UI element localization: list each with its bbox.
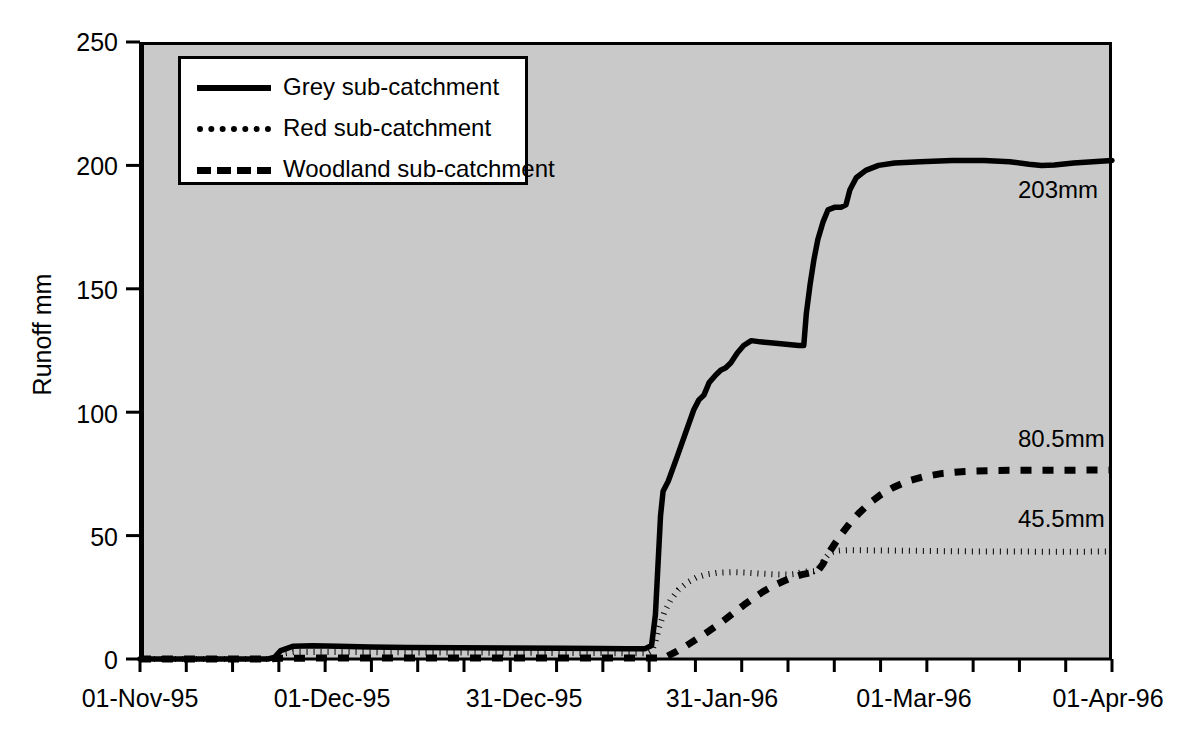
legend-swatch-solid-icon	[197, 80, 271, 94]
annotation-woodland-total: 80.5mm	[1018, 425, 1105, 453]
chart-legend: Grey sub-catchment Red sub-catchment Woo…	[178, 56, 528, 185]
legend-label-woodland: Woodland sub-catchment	[283, 155, 555, 183]
legend-item-red: Red sub-catchment	[181, 106, 525, 149]
runoff-chart: Runoff mm 250 200 150 100 50 0 01-Nov-95…	[0, 0, 1188, 737]
legend-label-red: Red sub-catchment	[283, 114, 491, 142]
legend-swatch-dashed-icon	[197, 162, 271, 176]
legend-swatch-dotted-icon	[197, 121, 271, 135]
legend-label-grey: Grey sub-catchment	[283, 73, 499, 101]
annotation-grey-total: 203mm	[1018, 176, 1098, 204]
legend-item-woodland: Woodland sub-catchment	[181, 147, 525, 190]
legend-item-grey: Grey sub-catchment	[181, 65, 525, 108]
annotation-red-total: 45.5mm	[1018, 505, 1105, 533]
